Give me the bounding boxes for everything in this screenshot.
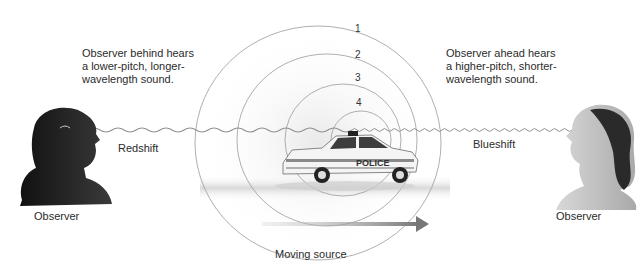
car-text: POLICE [356, 158, 390, 168]
right-observer-label: Observer [556, 210, 601, 223]
left-observer-figure [20, 108, 112, 206]
wavefront-number-4: 4 [356, 97, 362, 108]
right-observer-caption: Observer ahead hears a higher-pitch, sho… [446, 47, 557, 86]
right-caption-line-3: wavelength sound. [446, 73, 557, 86]
right-caption-line-2: a higher-pitch, shorter- [446, 60, 557, 73]
right-observer-figure [556, 105, 636, 210]
moving-source-label: Moving source [275, 248, 347, 261]
wavefront-number-1: 1 [355, 23, 361, 34]
right-caption-line-1: Observer ahead hears [446, 47, 557, 60]
wavefront-number-2: 2 [355, 49, 361, 60]
blueshift-label: Blueshift [473, 138, 515, 151]
left-caption-line-1: Observer behind hears [82, 47, 194, 60]
wavefront-number-3: 3 [355, 72, 361, 83]
redshift-label: Redshift [118, 142, 158, 155]
diagram-canvas: POLICE [0, 0, 644, 269]
left-observer-label: Observer [34, 210, 79, 223]
left-observer-caption: Observer behind hears a lower-pitch, lon… [82, 47, 194, 86]
doppler-diagram: POLICE Observer behind hears a lower-pit… [0, 0, 644, 269]
left-caption-line-2: a lower-pitch, longer- [82, 60, 194, 73]
left-caption-line-3: wavelength sound. [82, 73, 194, 86]
